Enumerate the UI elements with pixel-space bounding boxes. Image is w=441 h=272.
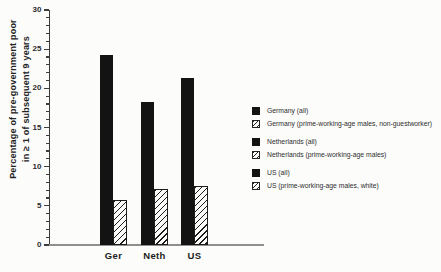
y-tick-label: 25	[14, 44, 42, 54]
y-axis-label: Percentage of pre-government poor in ≥ 1…	[7, 0, 33, 209]
legend-row: Germany (all)	[252, 106, 432, 115]
y-tick-label: 0	[14, 240, 42, 250]
y-tick-label: 20	[14, 83, 42, 93]
x-label-ger: Ger	[92, 250, 136, 261]
y-minor-tick	[46, 221, 49, 222]
y-minor-tick	[46, 135, 49, 136]
bar-ger-hatched	[113, 200, 127, 245]
legend-label: US (prime-working-age males, white)	[267, 181, 379, 190]
y-minor-tick	[46, 197, 49, 198]
y-major-tick	[44, 9, 49, 10]
y-tick-label: 15	[14, 123, 42, 133]
legend-group: Netherlands (all)Netherlands (prime-work…	[252, 137, 432, 159]
hatched-swatch-icon	[252, 120, 260, 128]
y-minor-tick	[46, 111, 49, 112]
y-minor-tick	[46, 96, 49, 97]
x-label-neth: Neth	[133, 250, 177, 261]
y-minor-tick	[46, 158, 49, 159]
legend-group: Germany (all)Germany (prime-working-age …	[252, 106, 432, 128]
legend-row: Netherlands (prime-working-age males)	[252, 150, 432, 159]
solid-swatch-icon	[252, 138, 260, 146]
bar-neth-all	[141, 102, 154, 245]
y-axis	[49, 10, 51, 245]
y-major-tick	[44, 88, 49, 89]
y-minor-tick	[46, 64, 49, 65]
y-minor-tick	[46, 80, 49, 81]
legend-label: Netherlands (prime-working-age males)	[267, 150, 386, 159]
y-tick-label: 5	[14, 201, 42, 211]
legend-row: Germany (prime-working-age males, non-gu…	[252, 119, 432, 128]
solid-swatch-icon	[252, 107, 260, 115]
y-minor-tick	[46, 143, 49, 144]
legend: Germany (all)Germany (prime-working-age …	[252, 106, 432, 190]
legend-group: US (all)US (prime-working-age males, whi…	[252, 168, 432, 190]
hatched-swatch-icon	[252, 182, 260, 190]
y-minor-tick	[46, 190, 49, 191]
legend-row: US (prime-working-age males, white)	[252, 181, 432, 190]
y-minor-tick	[46, 56, 49, 57]
y-minor-tick	[46, 174, 49, 175]
y-minor-tick	[46, 72, 49, 73]
bar-us-hatched	[194, 186, 208, 245]
y-minor-tick	[46, 182, 49, 183]
y-tick-label: 10	[14, 162, 42, 172]
hatched-swatch-icon	[252, 151, 260, 159]
y-minor-tick	[46, 41, 49, 42]
y-minor-tick	[46, 119, 49, 120]
y-minor-tick	[46, 229, 49, 230]
y-tick-label: 30	[14, 5, 42, 15]
y-minor-tick	[46, 25, 49, 26]
legend-label: US (all)	[267, 168, 290, 177]
bar-ger-all	[100, 55, 113, 245]
legend-row: Netherlands (all)	[252, 137, 432, 146]
y-major-tick	[44, 127, 49, 128]
y-minor-tick	[46, 17, 49, 18]
y-major-tick	[44, 49, 49, 50]
y-minor-tick	[46, 33, 49, 34]
bar-neth-hatched	[154, 189, 168, 245]
y-major-tick	[44, 244, 49, 245]
legend-label: Germany (all)	[267, 106, 308, 115]
y-major-tick	[44, 166, 49, 167]
legend-label: Germany (prime-working-age males, non-gu…	[267, 119, 432, 128]
y-minor-tick	[46, 213, 49, 214]
legend-row: US (all)	[252, 168, 432, 177]
legend-label: Netherlands (all)	[267, 137, 317, 146]
x-label-us: US	[173, 250, 217, 261]
y-minor-tick	[46, 237, 49, 238]
y-minor-tick	[46, 150, 49, 151]
y-axis-label-line1: Percentage of pre-government poor	[7, 0, 20, 209]
solid-swatch-icon	[252, 169, 260, 177]
bar-chart-figure: Percentage of pre-government poor in ≥ 1…	[0, 0, 441, 272]
y-major-tick	[44, 205, 49, 206]
bar-us-all	[181, 78, 194, 245]
y-axis-label-line2: in ≥ 1 of subsequent 9 years	[20, 0, 33, 209]
y-minor-tick	[46, 103, 49, 104]
